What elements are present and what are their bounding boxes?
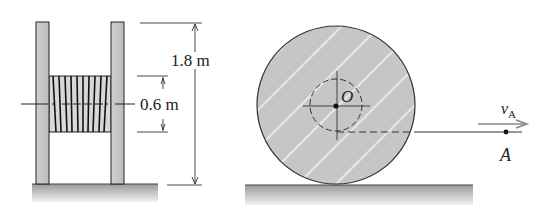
front-view bbox=[240, 0, 527, 205]
ground-left bbox=[32, 184, 158, 202]
point-A-label: A bbox=[500, 146, 511, 164]
velocity-arrow bbox=[478, 120, 527, 128]
point-A bbox=[504, 130, 509, 135]
dimension-label-0.6m: 0.6 m bbox=[139, 96, 180, 113]
left-flange bbox=[36, 22, 49, 184]
center-point-O bbox=[333, 103, 338, 108]
right-flange bbox=[111, 22, 124, 184]
velocity-subscript: A bbox=[508, 108, 516, 120]
ground-right bbox=[245, 185, 473, 205]
center-label-O: O bbox=[341, 88, 353, 105]
reel-diagram bbox=[0, 0, 538, 212]
velocity-label: vA bbox=[501, 101, 516, 120]
dimension-label-1.8m: 1.8 m bbox=[170, 52, 211, 69]
